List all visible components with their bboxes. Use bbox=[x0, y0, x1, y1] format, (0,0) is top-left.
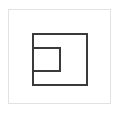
inner-square bbox=[32, 47, 61, 72]
